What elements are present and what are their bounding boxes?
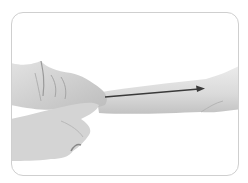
- forearm: [96, 65, 239, 114]
- illustration-frame: [11, 12, 239, 176]
- upper-hand: [11, 61, 107, 110]
- massage-illustration: [11, 12, 239, 176]
- lower-hand: [11, 103, 99, 161]
